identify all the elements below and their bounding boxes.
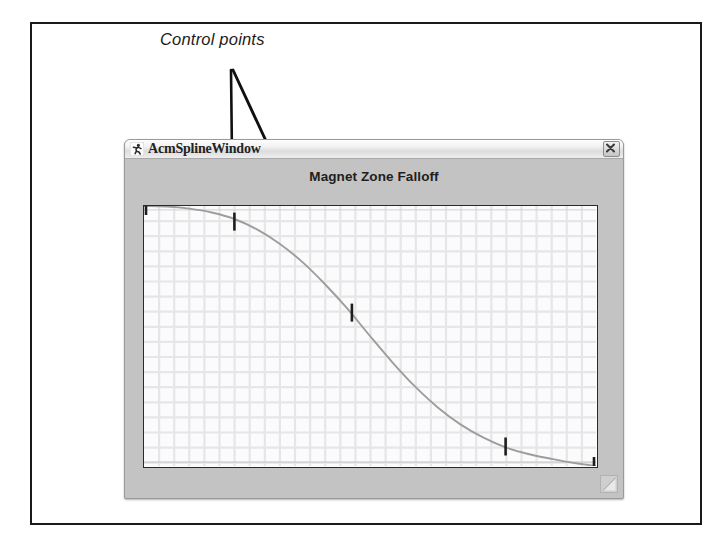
running-figure-icon (130, 142, 144, 156)
window-title: AcmSplineWindow (148, 141, 603, 157)
window-body: Magnet Zone Falloff (125, 159, 623, 498)
spline-plot-svg[interactable] (144, 206, 596, 466)
app-window[interactable]: AcmSplineWindow Magnet Zone Falloff (124, 139, 624, 499)
caption-remnant (28, 0, 218, 4)
chart-title: Magnet Zone Falloff (125, 169, 623, 184)
resize-grip-icon[interactable] (600, 475, 618, 493)
close-button[interactable] (603, 141, 620, 157)
annotation-label-control-points: Control points (160, 30, 265, 49)
close-icon (604, 142, 617, 154)
window-title-bar[interactable]: AcmSplineWindow (125, 140, 623, 159)
spline-plot-panel[interactable] (143, 205, 598, 468)
